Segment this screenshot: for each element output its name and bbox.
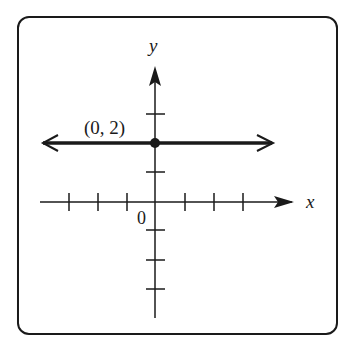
x-axis: x [40,191,315,212]
point-label: (0, 2) [84,117,125,139]
figure-frame [18,17,337,334]
y-axis: y [146,35,165,318]
point-0-2 [150,138,160,148]
coordinate-plane-figure: x y 0 (0, 2) [0,0,343,347]
y-axis-label: y [147,35,158,56]
x-axis-label: x [305,191,315,212]
origin-label: 0 [137,208,146,228]
